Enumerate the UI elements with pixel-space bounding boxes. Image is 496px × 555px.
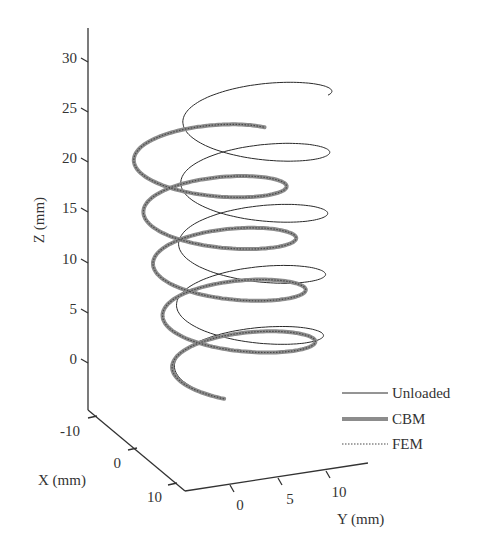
legend-label-unloaded: Unloaded: [392, 385, 451, 401]
plot-area: [134, 82, 332, 399]
z-tick-25: 25: [62, 100, 77, 116]
legend-label-cbm: CBM: [392, 411, 425, 427]
y-tick-0: 0: [236, 497, 244, 513]
x-tick-0: 0: [114, 455, 122, 471]
x-axis-line: [88, 410, 185, 491]
x-tick-10: 10: [147, 489, 162, 505]
z-axis-label: Z (mm): [31, 197, 48, 243]
x-tick-neg10: -10: [60, 423, 80, 439]
z-tick-30: 30: [62, 50, 77, 66]
axes: [81, 28, 368, 492]
z-tick-5: 5: [70, 301, 78, 317]
y-tick-labels: 0 5 10: [236, 484, 346, 513]
x-tick-labels: -10 0 10: [60, 423, 162, 505]
z-tick-labels: 30 25 20 15 10 5 0: [62, 50, 77, 367]
helix-3d-chart: 30 25 20 15 10 5 0 Z (mm) -10 0 10 X (mm…: [0, 0, 496, 555]
z-tick-0: 0: [70, 351, 78, 367]
legend: Unloaded CBM FEM: [342, 385, 451, 452]
y-axis-label: Y (mm): [337, 511, 384, 528]
legend-label-fem: FEM: [392, 436, 423, 452]
x-axis-label: X (mm): [38, 472, 86, 489]
z-tick-15: 15: [62, 200, 77, 216]
y-tick-10: 10: [332, 484, 347, 500]
y-tick-5: 5: [286, 491, 294, 507]
z-tick-10: 10: [62, 251, 77, 267]
fem-series: [134, 124, 315, 399]
cbm-series: [134, 124, 315, 399]
z-tick-20: 20: [62, 150, 77, 166]
